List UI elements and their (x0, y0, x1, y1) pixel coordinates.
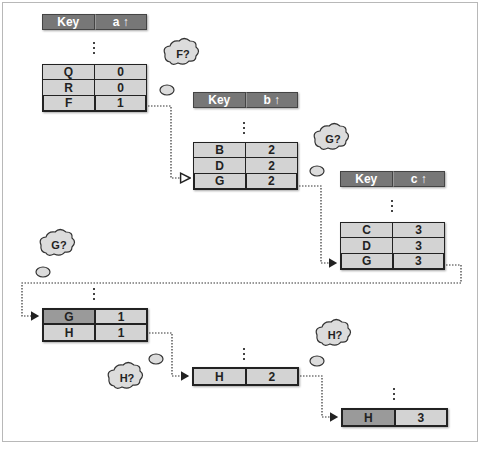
header-col-b: b ↑ (246, 92, 299, 108)
table-row: D 3 (340, 238, 445, 254)
table-row: H 1 (42, 325, 148, 342)
cell-value: 2 (247, 174, 299, 190)
cell-key: Q (42, 64, 95, 80)
cell-value: 3 (393, 238, 445, 254)
ellipsis-icon (391, 200, 393, 215)
table-c-header: Key c ↑ (340, 171, 445, 187)
cell-key: C (340, 222, 393, 238)
table-a: Q 0 R 0 F 1 (42, 64, 147, 112)
table-row: R 0 (42, 80, 147, 96)
cell-value: 3 (393, 222, 445, 238)
ellipsis-icon (243, 348, 245, 363)
cloud-label: G? (313, 133, 353, 145)
table-row-highlight: G 3 (340, 254, 445, 270)
sort-up-icon: ↑ (421, 172, 427, 186)
cell-value: 1 (96, 325, 148, 342)
cell-value: 1 (96, 308, 148, 325)
sort-up-icon: ↑ (274, 93, 280, 107)
table-row: C 3 (340, 222, 445, 238)
cloud-label: H? (107, 372, 147, 384)
header-col-a: a ↑ (95, 14, 148, 30)
cell-value: 3 (394, 254, 446, 270)
table-a-header: Key a ↑ (42, 14, 147, 30)
cell-key: F (42, 96, 96, 112)
cell-key: D (340, 238, 393, 254)
table-b: B 2 D 2 G 2 (193, 142, 298, 190)
header-key: Key (193, 92, 246, 108)
cell-key: H (341, 408, 396, 427)
cell-value: 2 (246, 142, 298, 158)
result-table-1: G 1 H 1 (42, 308, 148, 342)
cell-key: H (42, 325, 96, 342)
cell-key: G (42, 308, 96, 325)
cloud-label: H? (315, 329, 355, 341)
cell-key: D (193, 158, 246, 174)
cell-value: 2 (247, 367, 300, 386)
table-row: G 1 (42, 308, 148, 325)
ellipsis-icon (93, 42, 95, 57)
cell-key: G (193, 174, 247, 190)
cell-key: G (340, 254, 394, 270)
header-col-c: c ↑ (393, 171, 446, 187)
table-row-highlight: F 1 (42, 96, 147, 112)
header-key: Key (340, 171, 393, 187)
cell-value: 0 (95, 80, 147, 96)
table-row: B 2 (193, 142, 298, 158)
cell-key: H (192, 367, 247, 386)
table-b-header: Key b ↑ (193, 92, 298, 108)
result-table-3: H 3 (341, 408, 448, 427)
ellipsis-icon (393, 388, 395, 403)
cell-value: 0 (95, 64, 147, 80)
cell-value: 3 (396, 408, 449, 427)
cell-value: 1 (96, 96, 148, 112)
table-row: H 3 (341, 408, 448, 427)
cell-key: B (193, 142, 246, 158)
table-row: D 2 (193, 158, 298, 174)
ellipsis-icon (243, 122, 245, 137)
cell-key: R (42, 80, 95, 96)
cloud-label: F? (163, 48, 203, 60)
table-row-highlight: G 2 (193, 174, 298, 190)
ellipsis-icon (93, 288, 95, 303)
sort-up-icon: ↑ (123, 15, 129, 29)
header-key: Key (42, 14, 95, 30)
cloud-label: G? (39, 239, 79, 251)
table-row: H 2 (192, 367, 299, 386)
table-c: C 3 D 3 G 3 (340, 222, 445, 270)
result-table-2: H 2 (192, 367, 299, 386)
table-row: Q 0 (42, 64, 147, 80)
cell-value: 2 (246, 158, 298, 174)
